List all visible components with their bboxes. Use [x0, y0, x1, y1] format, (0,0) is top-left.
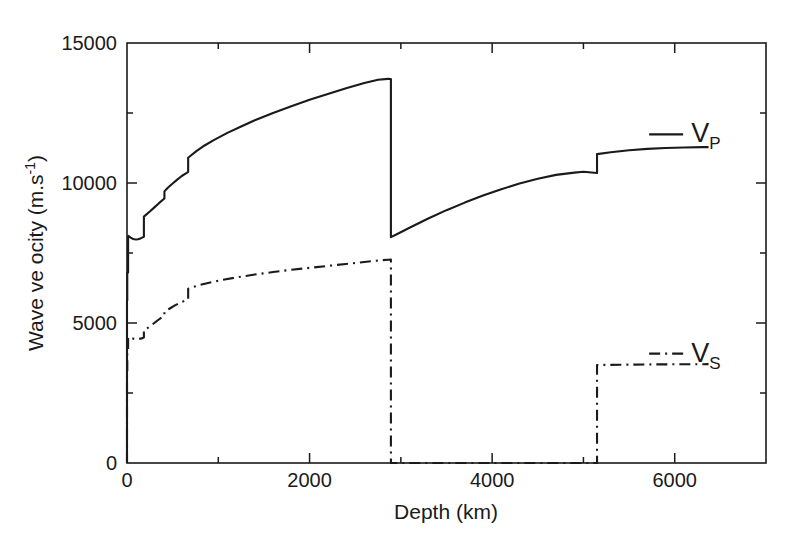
series-label-main: V: [691, 338, 709, 368]
series-label-main: V: [691, 118, 709, 148]
y-axis-title: Wave ve ocity (m.s-1): [22, 155, 47, 351]
chart-page: 0200040006000 050001000015000 VPVS Depth…: [0, 0, 808, 537]
y-axis-title-group: Wave ve ocity (m.s-1): [22, 155, 47, 351]
y-axis-title-main: Wave ve ocity (m.s: [24, 174, 47, 351]
y-axis-title-close: ): [24, 155, 47, 162]
x-tick-label: 4000: [470, 469, 515, 491]
chart-background: [0, 0, 808, 537]
y-axis-title-exponent: -1: [22, 162, 38, 175]
x-tick-label: 0: [121, 469, 132, 491]
series-label-subscript: P: [709, 134, 720, 153]
series-label-subscript: S: [709, 354, 720, 373]
y-tick-label: 5000: [73, 312, 118, 334]
y-tick-label: 15000: [61, 32, 117, 54]
y-tick-label: 0: [106, 452, 117, 474]
x-tick-label: 2000: [287, 469, 332, 491]
x-tick-label: 6000: [652, 469, 697, 491]
y-tick-label: 10000: [61, 172, 117, 194]
x-axis-title: Depth (km): [394, 500, 498, 523]
seismic-velocity-chart: 0200040006000 050001000015000 VPVS Depth…: [0, 0, 808, 537]
